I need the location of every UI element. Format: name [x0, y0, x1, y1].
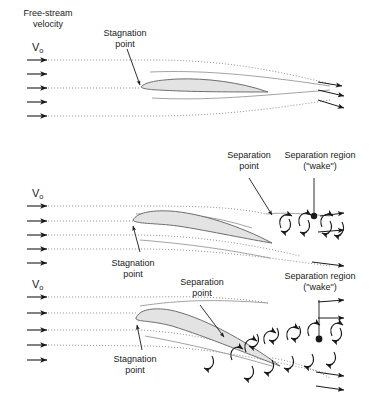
wake-center-dot-2 — [311, 213, 317, 219]
exit-arrows-1 — [318, 82, 344, 108]
panel-1-group — [27, 49, 344, 116]
inflow-arrows-3 — [27, 297, 47, 360]
velocity-symbol-panel-3: Vo — [32, 279, 44, 291]
velocity-subscript-1: o — [39, 46, 43, 55]
separation-region-label-2: Separation region ("wake") — [266, 150, 374, 171]
velocity-subscript-2: o — [39, 192, 43, 201]
stagnation-leader-2 — [133, 226, 140, 252]
velocity-symbol-panel-2: Vo — [32, 188, 44, 200]
separation-region-label-3: Separation region ("wake") — [266, 271, 374, 292]
free-stream-velocity-label: Free-stream velocity — [8, 8, 88, 29]
stagnation-leader-3 — [137, 325, 142, 350]
inflow-arrows-2 — [27, 206, 47, 263]
airfoil-1 — [141, 79, 268, 92]
airfoil-2 — [133, 211, 272, 243]
exit-arrows-3 — [316, 300, 344, 390]
exit-arrows-2 — [312, 213, 344, 266]
separation-point-leader-2 — [249, 178, 272, 215]
separation-point-label-3: Separation point — [166, 277, 238, 298]
panel-2-group — [27, 178, 344, 266]
stagnation-point-label-1: Stagnation point — [88, 28, 162, 49]
stagnation-point-label-2: Stagnation point — [96, 258, 170, 279]
wake-center-dot-3 — [316, 336, 323, 343]
stagnation-leader-1 — [127, 49, 140, 85]
airfoil-flow-separation-figure: Free-stream velocity Vo Vo Vo Stagnation… — [0, 0, 379, 408]
inflow-arrows-1 — [27, 60, 47, 116]
figure-canvas — [0, 0, 379, 408]
stagnation-point-label-3: Stagnation point — [98, 354, 172, 375]
panel-3-group — [27, 297, 344, 390]
velocity-subscript-3: o — [39, 283, 43, 292]
velocity-symbol-panel-1: Vo — [32, 42, 44, 54]
